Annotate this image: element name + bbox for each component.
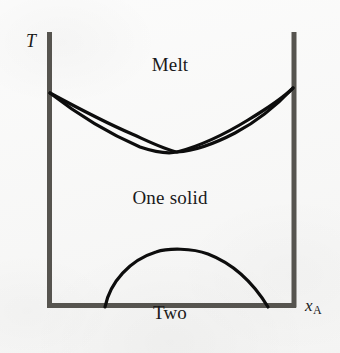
region-label-one-solid: One solid	[0, 188, 340, 209]
region-label-melt: Melt	[0, 55, 340, 76]
region-label-two-solids: Two solids	[0, 262, 340, 353]
y-axis-label: T	[26, 31, 36, 52]
phase-diagram-figure: T xA Melt One solid Two solids	[0, 0, 340, 353]
region-label-two-solids-line1: Two	[0, 303, 340, 324]
